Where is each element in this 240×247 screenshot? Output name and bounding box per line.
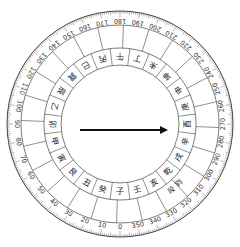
tick-mark bbox=[206, 53, 208, 55]
tick-mark bbox=[194, 40, 196, 42]
mountain-divider bbox=[178, 114, 195, 116]
degree-label: 120 bbox=[24, 65, 37, 80]
tick-mark bbox=[62, 27, 63, 29]
tick-mark bbox=[20, 71, 22, 72]
degree-label: 290 bbox=[211, 152, 223, 166]
tick-mark bbox=[180, 217, 181, 219]
mountain-label: 酉 bbox=[183, 120, 192, 128]
mountain-label: 戌 bbox=[172, 152, 185, 164]
tick-mark bbox=[170, 222, 171, 224]
tick-mark bbox=[23, 181, 25, 182]
tick-mark bbox=[188, 35, 190, 37]
tick-mark bbox=[27, 59, 30, 61]
tick-mark bbox=[50, 35, 52, 37]
tick-mark bbox=[19, 73, 21, 74]
tick-mark bbox=[166, 223, 168, 227]
arrow-head-icon bbox=[160, 126, 168, 134]
tick-mark bbox=[54, 213, 55, 215]
mountain-label: 申 bbox=[172, 85, 185, 97]
extra-marks: 鈞段 bbox=[166, 177, 185, 195]
band-divider bbox=[24, 141, 46, 146]
tick-mark bbox=[207, 54, 209, 56]
degree-label: 140 bbox=[47, 38, 62, 52]
tick-mark bbox=[201, 199, 203, 201]
band-divider bbox=[156, 191, 167, 211]
degree-label: 40 bbox=[48, 197, 59, 208]
degree-label: 80 bbox=[14, 137, 23, 147]
tick-mark bbox=[199, 201, 201, 203]
tick-mark bbox=[208, 56, 210, 58]
tick-mark bbox=[190, 210, 192, 212]
tick-mark bbox=[42, 43, 44, 45]
tick-mark bbox=[213, 184, 215, 185]
mountain-label: 丁 bbox=[132, 53, 142, 64]
mountain-label: 甲 bbox=[49, 136, 60, 146]
degree-labels: 0102030405060708090100110120130140150160… bbox=[13, 17, 227, 231]
tick-mark bbox=[49, 210, 51, 212]
tick-mark bbox=[202, 48, 204, 50]
tick-mark bbox=[29, 58, 31, 59]
mountain-label: 未 bbox=[148, 60, 160, 73]
band-divider bbox=[74, 37, 85, 57]
mountain-divider bbox=[45, 114, 62, 116]
tick-mark bbox=[65, 25, 66, 27]
tick-mark bbox=[100, 13, 101, 19]
tick-mark bbox=[42, 203, 44, 205]
mountain-divider bbox=[110, 182, 112, 199]
band-divider bbox=[184, 164, 204, 176]
tick-mark bbox=[219, 170, 223, 172]
mountain-label: 庚 bbox=[179, 102, 191, 112]
mountain-labels: 子癸丑艮寅甲卯乙辰巽巳丙午丁未坤申庚酉辛戌乾亥壬 bbox=[48, 52, 192, 196]
tick-mark bbox=[182, 216, 183, 218]
tick-mark bbox=[25, 62, 27, 63]
tick-mark bbox=[177, 219, 178, 221]
tick-mark bbox=[202, 51, 207, 55]
tick-mark bbox=[202, 198, 204, 200]
mountain-label: 丑 bbox=[81, 177, 92, 189]
mountain-label: 丙 bbox=[98, 53, 108, 64]
tick-mark bbox=[76, 20, 77, 22]
mountain-divider bbox=[128, 182, 130, 199]
tick-mark bbox=[148, 15, 149, 19]
tick-mark bbox=[37, 199, 39, 201]
degree-label: 60 bbox=[25, 170, 36, 181]
tick-mark bbox=[201, 47, 203, 49]
band-divider bbox=[193, 146, 215, 153]
tick-mark bbox=[14, 85, 20, 87]
degree-label: 20 bbox=[80, 215, 91, 225]
tick-mark bbox=[65, 221, 66, 223]
tick-mark bbox=[72, 223, 74, 227]
tick-mark bbox=[218, 73, 220, 74]
tick-mark bbox=[207, 192, 209, 194]
mountain-label: 坤 bbox=[161, 70, 174, 83]
tick-mark bbox=[165, 21, 166, 23]
degree-label: 90 bbox=[13, 120, 21, 128]
tick-mark bbox=[148, 229, 149, 233]
degree-label: 180 bbox=[114, 17, 126, 25]
degree-label: 250 bbox=[211, 82, 223, 96]
tick-mark bbox=[218, 176, 220, 177]
tick-mark bbox=[21, 69, 23, 70]
tick-mark bbox=[31, 54, 33, 56]
tick-mark bbox=[197, 43, 199, 45]
tick-mark bbox=[20, 176, 22, 177]
degree-label: 220 bbox=[179, 38, 194, 52]
tick-mark bbox=[221, 161, 227, 163]
tick-mark bbox=[32, 53, 34, 55]
mountain-divider bbox=[110, 49, 112, 66]
direction-arrow bbox=[80, 126, 168, 134]
tick-mark bbox=[209, 189, 211, 190]
tick-mark bbox=[203, 196, 205, 198]
tick-mark bbox=[185, 213, 186, 215]
degree-label: 30 bbox=[63, 207, 74, 218]
tick-mark bbox=[55, 31, 57, 34]
mountain-label: 子 bbox=[116, 187, 124, 196]
band-divider bbox=[194, 102, 216, 107]
tick-mark bbox=[206, 194, 208, 196]
tick-mark bbox=[67, 222, 68, 224]
tick-mark bbox=[221, 85, 227, 87]
tick-mark bbox=[21, 178, 23, 179]
tick-mark bbox=[165, 225, 166, 227]
tick-mark bbox=[30, 56, 32, 58]
tick-mark bbox=[33, 193, 38, 197]
